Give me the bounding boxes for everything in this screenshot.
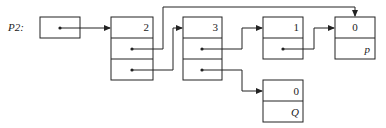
node-p-name: p (364, 43, 371, 55)
node-p: 0 p (335, 17, 375, 59)
node-q: 0 Q (263, 80, 303, 122)
node-q-name: Q (291, 106, 299, 118)
node-p-value: 0 (352, 21, 358, 33)
p2-label: P2: (7, 21, 24, 33)
node-2-value: 2 (144, 21, 150, 33)
node-1: 1 (263, 17, 303, 59)
node-3-value: 3 (213, 21, 219, 33)
linked-structure-diagram: P2: 2 3 1 0 p 0 Q (0, 0, 386, 128)
node-1-value: 1 (294, 21, 300, 33)
node-q-value: 0 (294, 85, 300, 97)
